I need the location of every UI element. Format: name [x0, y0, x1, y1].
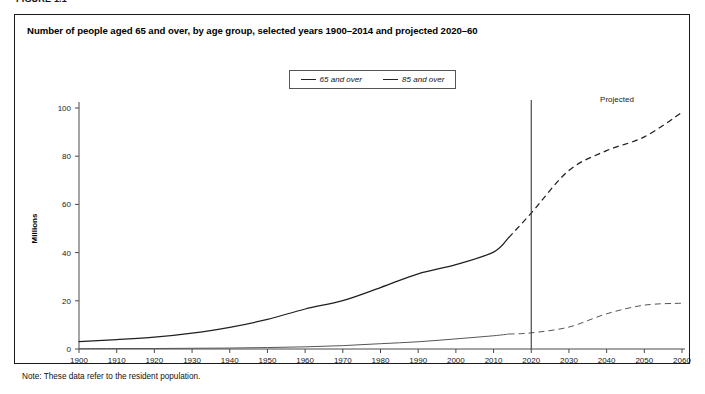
figure-container: FIGURE 1.1 Number of people aged 65 and … [0, 0, 705, 394]
x-tick-label: 1970 [334, 356, 352, 365]
x-tick-label: 1920 [145, 356, 163, 365]
series-65-and-over-projected [509, 112, 682, 237]
x-tick-label: 1950 [259, 356, 277, 365]
y-tick-label: 80 [62, 152, 71, 161]
y-tick-label: 40 [62, 249, 71, 258]
y-tick-label: 0 [67, 345, 72, 354]
x-tick-label: 2050 [635, 356, 653, 365]
x-tick-label: 1900 [70, 356, 88, 365]
y-tick-label: 100 [58, 104, 72, 113]
chart-tick-marks [75, 108, 682, 353]
chart-plot-area: 0204060801001900191019201930194019501960… [0, 0, 705, 394]
series-85-and-over-observed [79, 334, 509, 349]
chart-series [79, 112, 682, 348]
x-tick-label: 2000 [447, 356, 465, 365]
x-tick-label: 2020 [522, 356, 540, 365]
x-tick-label: 1980 [372, 356, 390, 365]
y-tick-label: 60 [62, 200, 71, 209]
x-tick-label: 2010 [485, 356, 503, 365]
x-tick-label: 1960 [296, 356, 314, 365]
y-axis-title: Millions [30, 213, 39, 243]
chart-axes [79, 102, 685, 349]
x-tick-label: 1910 [108, 356, 126, 365]
figure-note: Note: These data refer to the resident p… [22, 372, 200, 381]
x-tick-label: 1930 [183, 356, 201, 365]
projected-annotation-label: Projected [600, 95, 634, 104]
x-tick-label: 2030 [560, 356, 578, 365]
y-tick-label: 20 [62, 297, 71, 306]
x-tick-label: 1990 [409, 356, 427, 365]
x-tick-label: 2040 [598, 356, 616, 365]
x-tick-label: 1940 [221, 356, 239, 365]
series-65-and-over-observed [79, 238, 509, 342]
series-85-and-over-projected [509, 303, 682, 334]
chart-tick-labels: 0204060801001900191019201930194019501960… [30, 104, 691, 365]
x-tick-label: 2060 [673, 356, 691, 365]
